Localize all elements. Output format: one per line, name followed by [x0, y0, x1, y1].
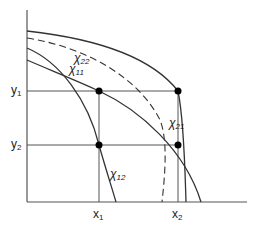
label-x2: x2 [172, 208, 182, 222]
label-chi12-sub: 12 [117, 173, 126, 182]
dot-x2-y1 [175, 88, 182, 95]
label-x1: x1 [93, 208, 103, 222]
label-chi21-sub: 21 [176, 122, 185, 131]
label-x2-sub: 2 [178, 213, 182, 222]
diagram-canvas [0, 0, 259, 228]
label-chi11-sub: 11 [76, 68, 84, 77]
label-x1-sub: 1 [99, 213, 103, 222]
label-chi21: χ21 [169, 117, 184, 131]
label-chi11: χ11 [69, 63, 84, 77]
curve-chi21 [27, 31, 186, 202]
label-chi12: χ12 [110, 168, 125, 182]
label-y1-sub: 1 [17, 89, 21, 98]
label-y2-sub: 2 [17, 143, 21, 152]
dot-x1-y1 [96, 88, 103, 95]
dot-x1-y2 [96, 142, 103, 149]
dot-x2-y2 [175, 142, 182, 149]
label-y2: y2 [11, 138, 21, 152]
label-y1: y1 [11, 84, 21, 98]
